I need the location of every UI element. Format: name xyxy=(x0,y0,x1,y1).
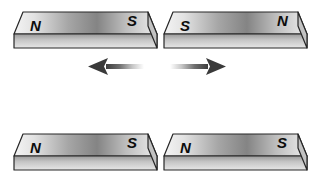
magnet-front-face xyxy=(14,34,157,48)
arrow-left-repel xyxy=(88,58,144,76)
arrow-left-tail xyxy=(106,64,144,69)
arrow-right-repel xyxy=(170,58,226,76)
magnet-bottom-right-south-label: S xyxy=(277,135,287,150)
magnet-top-right-south-label: S xyxy=(180,18,190,33)
magnet-bottom-right-north-label: N xyxy=(180,140,191,155)
magnet-bottom-left-north-label: N xyxy=(30,140,41,155)
arrow-left-head xyxy=(88,58,108,75)
magnet-diagram-canvas: N S xyxy=(0,0,311,177)
arrow-right-tail xyxy=(170,64,208,69)
arrow-right-repel-shape xyxy=(170,58,226,76)
magnet-front-face xyxy=(164,34,307,48)
magnet-top-right: S N xyxy=(164,8,311,58)
magnet-bottom-left: N S xyxy=(14,130,164,177)
magnet-top-left-north-label: N xyxy=(30,18,41,33)
magnet-front-face xyxy=(164,156,307,170)
arrow-left-repel-shape xyxy=(88,58,144,76)
magnet-top-right-north-label: N xyxy=(277,13,288,28)
arrow-right-head xyxy=(206,58,226,75)
magnet-top-left: N S xyxy=(14,8,164,58)
magnet-bottom-right: N S xyxy=(164,130,311,177)
magnet-bottom-left-south-label: S xyxy=(127,135,137,150)
magnet-front-face xyxy=(14,156,157,170)
magnet-top-left-south-label: S xyxy=(127,13,137,28)
